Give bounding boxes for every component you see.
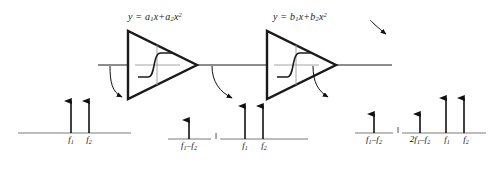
tick-label-f1-minus-f2-diff1: f1–f2	[181, 140, 197, 151]
amplifier-stage-1	[128, 31, 197, 99]
pointer-arrow-stage2-output	[370, 20, 386, 34]
input-spectrum-group	[18, 101, 131, 133]
tick-diff1-tail: –f	[187, 140, 194, 150]
tick-f2-input-sub: 2	[89, 139, 92, 145]
tick-f2-out2-sub: 2	[466, 139, 469, 145]
pointer-arrow-input	[110, 66, 122, 97]
formula-1-var2-sup: 2	[179, 11, 182, 18]
formula-2-var2-sup: 2	[324, 11, 327, 18]
stage2-difference-spectrum-group	[355, 114, 393, 133]
tick-diff1-tail-sub: 2	[194, 145, 197, 151]
tick-label-f1-input: f1	[68, 134, 74, 145]
tick-f1-input-sub: 1	[71, 139, 74, 145]
amplifier-stage-2	[267, 31, 336, 99]
tick-2f1mf2-tail: –f	[420, 134, 427, 144]
stage2-output-spectrum-group	[402, 98, 486, 133]
tick-2f1mf2-tail-sub: 2	[427, 139, 430, 145]
pointer-arrow-stage1-output	[212, 66, 232, 98]
tick-label-f2-input: f2	[86, 134, 92, 145]
tick-f1-out2-sub: 1	[447, 139, 450, 145]
amplifier-chain-diagram	[0, 0, 500, 172]
stage1-output-spectrum-group	[220, 106, 308, 139]
break-mark-diff2: ‖	[397, 125, 400, 135]
formula-stage-1: y = a1x+a2x2	[128, 11, 182, 22]
tick-f1-out1-sub: 1	[245, 145, 248, 151]
tick-label-2f1-minus-f2-out2: 2f1–f2	[410, 134, 431, 145]
tick-label-f1-minus-f2-diff2: f1–f2	[366, 134, 382, 145]
formula-stage-2: y = b1x+b2x2	[273, 11, 327, 22]
stage1-difference-spectrum-group	[168, 120, 211, 139]
tick-f2-out1-sub: 2	[264, 145, 267, 151]
tick-label-f2-out1: f2	[261, 140, 267, 151]
formula-1-equals: =	[133, 11, 145, 22]
formula-2-equals: =	[278, 11, 290, 22]
diagram-canvas: y = a1x+a2x2 y = b1x+b2x2 f1 f2 f1–f2 ‖ …	[0, 0, 500, 172]
break-mark-diff1: ‖	[215, 131, 218, 141]
tick-label-f1-out1: f1	[242, 140, 248, 151]
tick-label-f2-out2: f2	[463, 134, 469, 145]
tick-label-f1-out2: f1	[444, 134, 450, 145]
tick-diff2-tail: –f	[372, 134, 379, 144]
tick-diff2-tail-sub: 2	[379, 139, 382, 145]
